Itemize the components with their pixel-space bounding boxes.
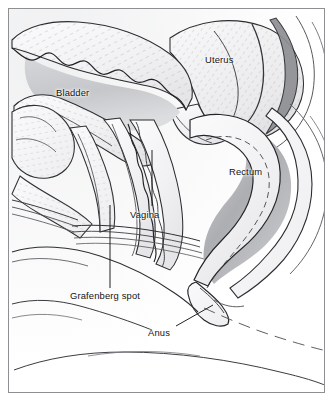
anatomy-illustration-canvas bbox=[0, 0, 335, 403]
label-bladder: Bladder bbox=[56, 88, 89, 97]
label-rectum: Rectum bbox=[229, 167, 262, 176]
anatomy-figure: Bladder Uterus Rectum Vagina Grafenberg … bbox=[0, 0, 335, 403]
label-vagina: Vagina bbox=[130, 210, 159, 219]
label-uterus: Uterus bbox=[205, 55, 234, 64]
label-grafenberg-spot: Grafenberg spot bbox=[70, 291, 140, 300]
label-anus: Anus bbox=[148, 328, 170, 337]
illustration-body bbox=[9, 9, 334, 392]
